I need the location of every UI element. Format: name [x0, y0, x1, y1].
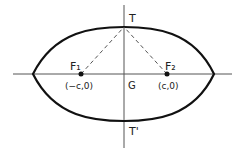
diagram-canvas: T T' G F₁ F₂ (−c,0) (c,0)	[0, 0, 242, 160]
label-center: G	[128, 80, 136, 91]
label-focus2-coord: (c,0)	[158, 81, 179, 91]
label-top-point: T	[128, 12, 136, 25]
lens-diagram: T T' G F₁ F₂ (−c,0) (c,0)	[0, 0, 242, 160]
dashed-line-f1-t	[81, 27, 124, 74]
label-focus2: F₂	[165, 60, 176, 73]
label-focus1-coord: (−c,0)	[65, 81, 93, 91]
label-focus1: F₁	[70, 60, 81, 73]
label-bottom-point: T'	[128, 125, 139, 138]
dashed-line-f2-t	[124, 27, 167, 74]
